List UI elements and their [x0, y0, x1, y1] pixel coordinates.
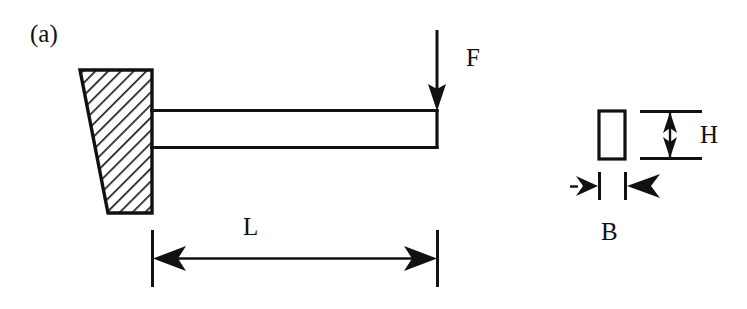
length-dimension [153, 230, 438, 287]
force-label: F [466, 44, 480, 71]
height-label: H [700, 121, 718, 148]
breadth-arrow-head-right [627, 174, 660, 198]
length-label: L [243, 213, 258, 240]
figure-container: (a) F [0, 0, 747, 309]
support-hatch-fill [80, 70, 152, 213]
cantilever-beam-diagram: (a) F [0, 0, 747, 309]
cantilever-beam [150, 109, 439, 149]
height-dimension [640, 112, 702, 159]
panel-label: (a) [30, 20, 58, 48]
cross-section-rectangle [599, 111, 625, 159]
breadth-arrow-head-left [576, 176, 598, 196]
force-arrow [428, 30, 446, 111]
breadth-dimension [570, 172, 660, 200]
breadth-label: B [601, 218, 618, 245]
fixed-wall-support [80, 70, 152, 213]
